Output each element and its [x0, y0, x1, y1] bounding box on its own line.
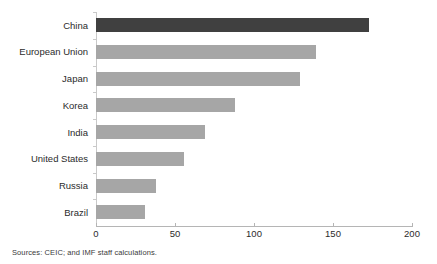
category-tick: [93, 66, 96, 67]
plot-area: [96, 12, 412, 226]
bar: [96, 205, 145, 219]
category-label-row: Brazil: [64, 199, 88, 226]
bar: [96, 98, 235, 112]
category-label: India: [67, 128, 88, 138]
category-label: Korea: [63, 101, 88, 111]
category-tick: [93, 173, 96, 174]
category-label-row: Russia: [59, 173, 88, 200]
category-label: Japan: [62, 74, 88, 84]
value-tick: [333, 223, 334, 227]
bar: [96, 45, 316, 59]
bar: [96, 18, 369, 32]
source-note: Sources: CEIC; and IMF staff calculation…: [12, 248, 157, 257]
category-label-row: Korea: [63, 92, 88, 119]
category-tick: [93, 199, 96, 200]
category-tick: [93, 12, 96, 13]
category-label: United States: [31, 154, 88, 164]
bar: [96, 125, 205, 139]
category-tick: [93, 39, 96, 40]
bar-row: [96, 146, 412, 173]
bar: [96, 72, 300, 86]
category-tick: [93, 146, 96, 147]
category-label-row: Japan: [62, 66, 88, 93]
value-tick-label: 200: [404, 229, 420, 239]
category-tick: [93, 119, 96, 120]
bar-row: [96, 119, 412, 146]
category-label-row: China: [63, 12, 88, 39]
category-label: China: [63, 21, 88, 31]
bar-chart-figure: ChinaEuropean UnionJapanKoreaIndiaUnited…: [0, 0, 437, 264]
bar: [96, 179, 156, 193]
category-axis: ChinaEuropean UnionJapanKoreaIndiaUnited…: [0, 12, 92, 226]
bar-row: [96, 12, 412, 39]
category-tick: [93, 92, 96, 93]
value-tick-label: 100: [246, 229, 262, 239]
category-label-row: United States: [31, 146, 88, 173]
category-label: Brazil: [64, 208, 88, 218]
value-tick-label: 50: [170, 229, 181, 239]
bar-row: [96, 173, 412, 200]
bar: [96, 152, 184, 166]
value-tick-label: 150: [325, 229, 341, 239]
value-tick: [96, 223, 97, 227]
category-label-row: India: [67, 119, 88, 146]
value-tick: [175, 223, 176, 227]
category-label: European Union: [19, 47, 88, 57]
category-label-row: European Union: [19, 39, 88, 66]
bar-row: [96, 199, 412, 226]
category-label: Russia: [59, 181, 88, 191]
bar-row: [96, 92, 412, 119]
bar-row: [96, 39, 412, 66]
bar-row: [96, 66, 412, 93]
value-tick-label: 0: [93, 229, 98, 239]
value-tick: [412, 223, 413, 227]
value-tick: [254, 223, 255, 227]
